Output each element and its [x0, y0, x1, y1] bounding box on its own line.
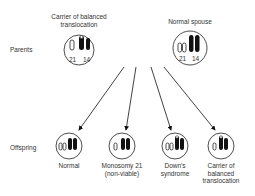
offspring-normal-cell [56, 133, 82, 159]
chrom-label-21: 21 [69, 56, 76, 64]
chrom-label-14: 14 [83, 56, 90, 64]
inheritance-arrows [79, 67, 215, 130]
translocation-diagram: Parents Offspring Carrier of balancedtra… [0, 0, 255, 196]
offspring-downs-cell [162, 133, 188, 159]
parent-normal-title: Normal spouse [155, 18, 225, 26]
parent-carrier-title: Carrier of balancedtranslocation [44, 13, 114, 28]
offspring-label-normal: Normal [44, 162, 94, 170]
offspring-label-monosomy: Monosomy 21(non-viable) [97, 162, 147, 177]
offspring-monosomy-cell [109, 133, 135, 159]
offspring-label-downs: Down'ssyndrome [150, 162, 200, 177]
chrom-label-21: 21 [179, 55, 186, 63]
row-label-offspring: Offspring [10, 144, 36, 152]
chrom-label-14: 14 [192, 55, 199, 63]
offspring-label-carrier: Carrier ofbalancedtranslocation [196, 162, 246, 185]
offspring-carrier-cell [208, 133, 234, 159]
row-label-parents: Parents [10, 46, 32, 54]
